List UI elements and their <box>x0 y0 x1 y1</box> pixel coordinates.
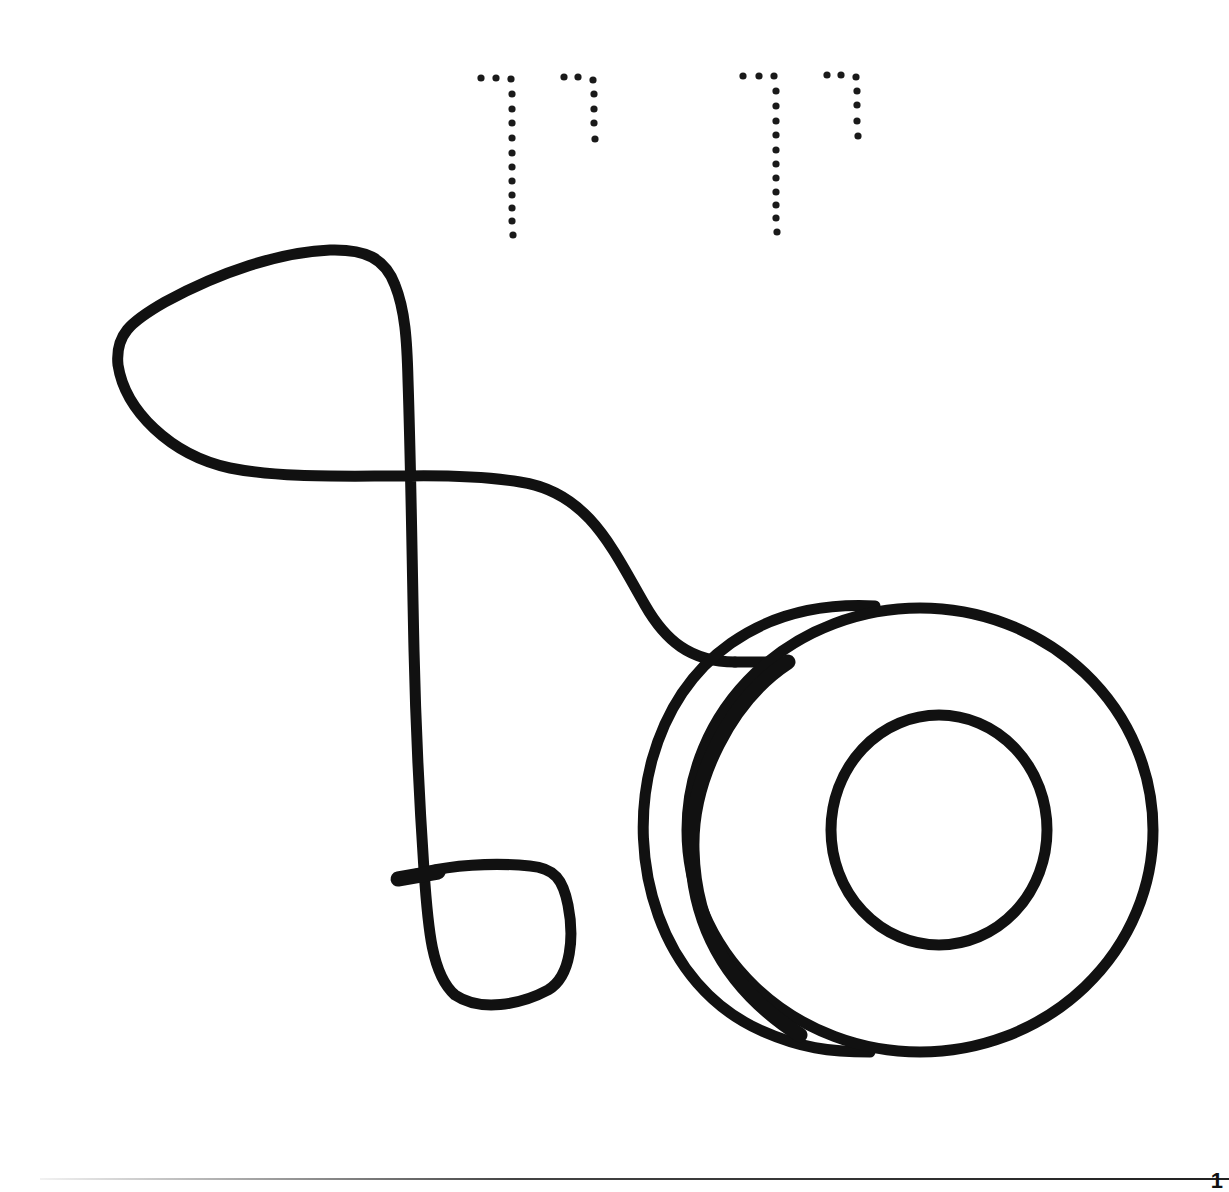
string-knot <box>398 872 438 879</box>
yo-yo-rim-depth <box>692 662 800 1035</box>
page-number: 1 <box>1211 1170 1223 1192</box>
yo-yo-front-rim <box>687 608 1153 1052</box>
footer-divider <box>40 1178 1229 1180</box>
yo-yo-string <box>118 250 735 1005</box>
yo-yo-hub <box>831 715 1047 945</box>
